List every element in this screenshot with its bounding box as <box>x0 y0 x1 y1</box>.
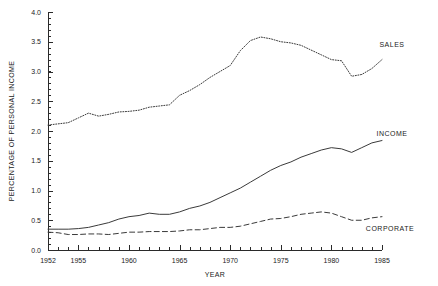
series-label-corporate: CORPORATE <box>366 225 414 232</box>
y-tick-label: 2.5 <box>31 98 41 105</box>
y-axis-title: PERCENTAGE OF PERSONAL INCOME <box>8 61 15 202</box>
x-tick-label: 1985 <box>374 257 390 264</box>
line-chart: 19521955196019651970197519801985 0.00.51… <box>0 0 438 286</box>
series-group <box>48 37 382 235</box>
series-line-sales <box>48 37 382 125</box>
series-line-income <box>48 141 382 230</box>
y-tick-label: 1.0 <box>31 187 41 194</box>
x-tick-label: 1955 <box>71 257 87 264</box>
series-line-corporate <box>48 212 382 235</box>
x-axis-major-ticks <box>49 245 383 250</box>
chart-container: 19521955196019651970197519801985 0.00.51… <box>0 0 438 286</box>
y-axis-tick-labels: 0.00.51.01.52.02.53.03.54.0 <box>31 9 41 254</box>
y-tick-label: 4.0 <box>31 9 41 16</box>
x-tick-label: 1960 <box>121 257 137 264</box>
x-axis-title: YEAR <box>205 271 226 278</box>
series-label-income: INCOME <box>377 130 408 137</box>
series-label-sales: SALES <box>379 41 404 48</box>
x-tick-label: 1975 <box>273 257 289 264</box>
y-tick-label: 2.0 <box>31 128 41 135</box>
x-tick-label: 1970 <box>222 257 238 264</box>
x-tick-label: 1965 <box>172 257 188 264</box>
y-tick-label: 3.0 <box>31 68 41 75</box>
y-tick-label: 1.5 <box>31 157 41 164</box>
y-tick-label: 0.5 <box>31 217 41 224</box>
y-tick-label: 3.5 <box>31 38 41 45</box>
series-labels-group: SALESINCOMECORPORATE <box>366 41 414 232</box>
x-tick-label: 1980 <box>324 257 340 264</box>
y-tick-label: 0.0 <box>31 247 41 254</box>
x-axis-tick-labels: 19521955196019651970197519801985 <box>40 257 390 264</box>
x-tick-label: 1952 <box>40 257 56 264</box>
